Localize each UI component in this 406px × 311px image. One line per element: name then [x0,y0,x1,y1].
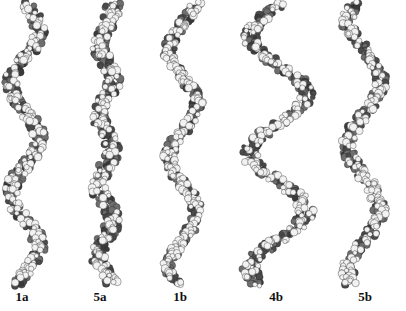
atom-sphere [255,152,261,158]
atom-sphere [258,169,264,175]
atom-sphere [302,96,307,101]
atom-sphere [33,22,41,30]
atom-sphere [352,279,359,286]
atom-sphere [24,164,29,169]
atom-sphere [357,246,364,253]
atom-sphere [36,260,41,265]
label-1a: 1a [16,289,29,305]
atom-sphere [354,0,360,5]
atom-sphere [101,68,107,74]
atom-sphere [12,279,19,286]
label-5a: 5a [94,289,107,305]
atom-sphere [310,95,315,100]
atom-sphere [24,5,32,13]
atom-sphere [187,3,193,9]
atom-sphere [266,177,271,182]
atom-sphere [29,130,37,138]
atom-sphere [258,138,264,144]
atom-sphere [370,65,375,70]
atom-sphere [373,231,379,237]
atom-sphere [38,146,44,152]
atom-sphere [167,275,173,281]
atom-sphere [270,7,275,12]
helix-model-4b [239,0,317,288]
atom-sphere [300,85,305,90]
atom-sphere [110,226,117,233]
atom-sphere [41,25,48,32]
atom-sphere [33,142,38,147]
atom-sphere [28,155,33,160]
atom-sphere [253,282,258,287]
atom-sphere [166,35,172,41]
atom-sphere [165,156,170,161]
atom-sphere [258,257,263,262]
atom-sphere [352,135,357,140]
atom-sphere [12,97,19,104]
atom-sphere [273,180,277,184]
atom-sphere [186,122,193,129]
atom-sphere [103,3,109,9]
atom-sphere [94,188,101,195]
atom-sphere [111,280,116,285]
atom-sphere [26,117,34,125]
atom-sphere [104,277,111,284]
atom-sphere [99,194,107,202]
atom-sphere [185,195,192,202]
atom-sphere [310,215,315,220]
atom-sphere [99,237,106,244]
atom-sphere [355,175,362,182]
atom-sphere [189,204,194,209]
atom-sphere [175,32,180,37]
atom-sphere [302,225,307,230]
atom-sphere [90,46,95,51]
atom-sphere [105,79,110,84]
helix-model-1b [160,0,207,288]
atom-sphere [354,43,360,49]
atom-sphere [116,217,122,223]
atom-sphere [97,53,102,58]
atom-sphere [108,25,114,31]
atom-sphere [356,156,361,161]
atom-sphere [371,181,376,186]
atom-sphere [15,104,21,110]
atom-sphere [364,227,370,233]
atom-sphere [111,91,117,97]
label-5b: 5b [358,289,372,305]
atom-sphere [99,201,107,209]
atom-sphere [266,129,273,136]
atom-sphere [106,52,113,59]
atom-sphere [107,193,111,197]
atom-sphere [22,171,28,177]
atom-sphere [102,185,109,192]
atom-sphere [99,28,105,34]
atom-sphere [4,175,12,183]
atom-sphere [94,122,99,127]
atom-sphere [113,136,118,141]
atom-sphere [252,43,260,51]
atom-sphere [242,261,249,268]
atom-sphere [116,83,123,90]
atom-sphere [184,180,191,187]
atom-sphere [103,84,108,89]
atom-sphere [350,143,356,149]
atom-sphere [103,141,108,146]
atom-sphere [309,85,313,89]
atom-sphere [106,165,112,171]
atom-sphere [251,30,256,35]
atom-sphere [106,127,112,133]
atom-sphere [357,118,364,125]
atom-sphere [185,84,193,92]
atom-sphere [242,159,249,166]
atom-sphere [241,35,246,40]
atom-sphere [342,279,348,285]
atom-sphere [178,134,183,139]
label-1b: 1b [173,289,187,305]
atom-sphere [7,206,13,212]
atom-sphere [257,249,262,254]
atom-sphere [287,226,292,231]
atom-sphere [19,281,24,286]
atom-sphere [281,185,286,190]
atom-sphere [376,63,382,69]
atom-sphere [249,268,256,275]
atom-sphere [99,133,104,138]
